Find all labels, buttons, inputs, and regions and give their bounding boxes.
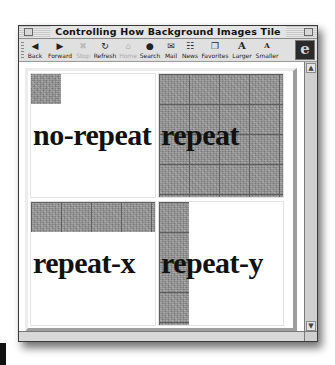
browser-logo-icon[interactable]: e bbox=[295, 40, 315, 60]
larger-button[interactable]: A Larger bbox=[231, 40, 253, 60]
back-label: Back bbox=[28, 52, 43, 59]
browser-window: Controlling How Background Images Tile ◀… bbox=[18, 25, 318, 342]
home-icon: ⌂ bbox=[119, 41, 137, 51]
stop-icon: ✖ bbox=[75, 41, 91, 51]
forward-arrow-icon: ▶ bbox=[47, 41, 73, 51]
cell-label-repeat-x: repeat-x bbox=[33, 246, 135, 280]
search-label: Search bbox=[140, 52, 161, 59]
favorites-label: Favorites bbox=[201, 52, 228, 59]
larger-text-icon: A bbox=[231, 41, 253, 51]
resize-grow-box[interactable] bbox=[304, 331, 317, 341]
cell-repeat: repeat bbox=[158, 73, 284, 198]
background-tile-no-repeat bbox=[31, 74, 61, 104]
back-arrow-icon: ◀ bbox=[25, 41, 45, 51]
smaller-label: Smaller bbox=[256, 52, 279, 59]
stop-button[interactable]: ✖ Stop bbox=[75, 40, 91, 60]
cell-repeat-x: repeat-x bbox=[30, 201, 156, 326]
background-tiles-repeat-x bbox=[31, 202, 155, 232]
stop-label: Stop bbox=[76, 52, 90, 59]
scroll-down-arrow-icon[interactable]: ▼ bbox=[306, 321, 316, 331]
cell-label-repeat-y: repeat-y bbox=[161, 246, 263, 280]
favorites-icon: ❐ bbox=[201, 41, 229, 51]
search-globe-icon: ● bbox=[139, 41, 161, 51]
refresh-button[interactable]: ↻ Refresh bbox=[93, 40, 117, 60]
smaller-text-icon: A bbox=[255, 41, 279, 51]
zoom-box[interactable] bbox=[304, 28, 313, 36]
cell-label-no-repeat: no-repeat bbox=[33, 118, 151, 152]
vertical-scrollbar[interactable]: ▲ ▼ bbox=[304, 62, 317, 332]
corner-mark bbox=[0, 343, 6, 365]
toolbar: ◀ Back ▶ Forward ✖ Stop ↻ Refresh ⌂ Home… bbox=[19, 39, 317, 62]
smaller-button[interactable]: A Smaller bbox=[255, 40, 279, 60]
search-button[interactable]: ● Search bbox=[139, 40, 161, 60]
scroll-up-arrow-icon[interactable]: ▲ bbox=[306, 63, 316, 73]
cell-label-repeat: repeat bbox=[161, 118, 239, 152]
cell-no-repeat: no-repeat bbox=[30, 73, 156, 198]
larger-label: Larger bbox=[232, 52, 251, 59]
news-icon: ☷ bbox=[181, 41, 199, 51]
status-bar bbox=[19, 331, 304, 341]
home-label: Home bbox=[119, 52, 137, 59]
toolbar-grip[interactable] bbox=[21, 42, 24, 58]
title-bar[interactable]: Controlling How Background Images Tile bbox=[19, 26, 317, 39]
mail-label: Mail bbox=[165, 52, 177, 59]
forward-label: Forward bbox=[48, 52, 72, 59]
page-content: no-repeat repeat repeat-x repeat-y bbox=[19, 62, 305, 332]
refresh-label: Refresh bbox=[94, 52, 117, 59]
news-label: News bbox=[182, 52, 198, 59]
mail-icon: ✉ bbox=[163, 41, 179, 51]
cell-repeat-y: repeat-y bbox=[158, 201, 284, 326]
forward-button[interactable]: ▶ Forward bbox=[47, 40, 73, 60]
favorites-button[interactable]: ❐ Favorites bbox=[201, 40, 229, 60]
table-frame: no-repeat repeat repeat-x repeat-y bbox=[25, 68, 297, 332]
news-button[interactable]: ☷ News bbox=[181, 40, 199, 60]
home-button[interactable]: ⌂ Home bbox=[119, 40, 137, 60]
close-box[interactable] bbox=[24, 28, 33, 36]
back-button[interactable]: ◀ Back bbox=[25, 40, 45, 60]
mail-button[interactable]: ✉ Mail bbox=[163, 40, 179, 60]
window-title: Controlling How Background Images Tile bbox=[50, 26, 286, 38]
refresh-icon: ↻ bbox=[93, 41, 117, 51]
